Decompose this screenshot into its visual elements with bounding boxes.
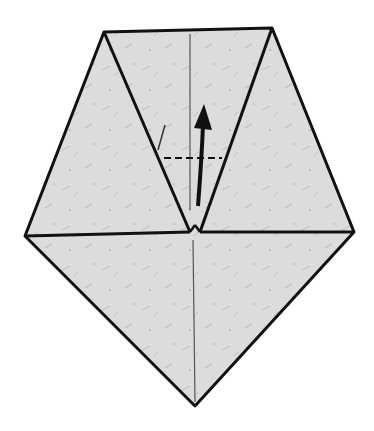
origami-diagram: [0, 0, 374, 431]
